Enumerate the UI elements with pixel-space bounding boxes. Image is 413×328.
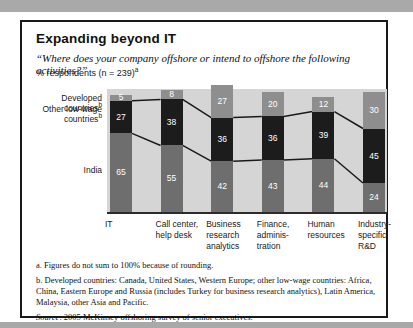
- bar-segment: 27: [110, 101, 132, 134]
- bar-segment: 12: [312, 97, 334, 112]
- bar-value-label: 30: [369, 106, 378, 115]
- bar-value-label: 12: [319, 100, 328, 109]
- x-axis-label: Business research analytics: [206, 219, 262, 252]
- x-axis-label: Industry- specific R&D: [358, 219, 413, 252]
- bar-value-label: 36: [217, 135, 226, 144]
- bar-segment: 36: [211, 118, 233, 162]
- bar-value-label: 36: [268, 134, 277, 143]
- page-top-margin: [0, 0, 413, 12]
- x-axis-label: IT: [105, 219, 161, 230]
- row-labels: Developed countriesb Other low-wage coun…: [22, 89, 104, 214]
- footnotes: a. Figures do not sum to 100% because of…: [36, 260, 378, 327]
- bar-value-label: 39: [319, 131, 328, 140]
- bar-segment: 20: [262, 92, 284, 116]
- source-label: Source: [36, 312, 59, 322]
- bar-value-label: 65: [116, 168, 125, 177]
- chart: Developed countriesb Other low-wage coun…: [22, 89, 390, 249]
- bar-value-label: 44: [319, 181, 328, 190]
- bar-value-label: 8: [169, 90, 174, 99]
- bar-segment: 8: [161, 90, 183, 100]
- footnote-marker: b: [98, 112, 102, 119]
- bar-segment: 43: [262, 160, 284, 212]
- bar-segment: 65: [110, 133, 132, 212]
- respondents-note: % respondents (n = 239)a: [36, 68, 138, 78]
- bar-value-label: 27: [217, 97, 226, 106]
- source-line: Source: 2005 McKinsey offshoring survey …: [36, 312, 378, 323]
- source-text: : 2005 McKinsey offshoring survey of sen…: [59, 312, 252, 322]
- bar-value-label: 5: [119, 93, 124, 102]
- row-label-india: India: [84, 165, 102, 175]
- bar-value-label: 45: [369, 152, 378, 161]
- bar-segment: 44: [312, 159, 334, 212]
- bar-value-label: 20: [268, 100, 277, 109]
- bar-segment: 55: [161, 145, 183, 212]
- plot-area: 6527555388423627433620443912244530: [107, 89, 387, 214]
- x-axis-labels: ITCall center, help deskBusiness researc…: [107, 214, 387, 249]
- exhibit-card: Expanding beyond IT “Where does your com…: [20, 20, 388, 318]
- bar-value-label: 42: [217, 182, 226, 191]
- respondents-footnote-marker: a: [135, 66, 139, 73]
- bar-value-label: 24: [369, 193, 378, 202]
- bar-segment: 30: [363, 92, 385, 128]
- bar-segment: 5: [110, 95, 132, 101]
- respondents-text: % respondents (n = 239): [36, 68, 135, 78]
- bar-segment: 27: [211, 85, 233, 118]
- x-axis-label: Call center, help desk: [156, 219, 212, 241]
- bar-segment: 42: [211, 161, 233, 212]
- footnote-b: b. Developed countries: Canada, United S…: [36, 275, 378, 308]
- connector-lines: [107, 89, 387, 214]
- bar-value-label: 43: [268, 182, 277, 191]
- bar-value-label: 38: [167, 118, 176, 127]
- bar-segment: 45: [363, 129, 385, 183]
- x-axis-label: Finance, adminis- tration: [257, 219, 313, 252]
- bar-value-label: 27: [116, 113, 125, 122]
- exhibit-title: Expanding beyond IT: [36, 31, 176, 46]
- footnote-a: a. Figures do not sum to 100% because of…: [36, 260, 378, 271]
- bar-segment: 38: [161, 99, 183, 145]
- row-label-other-low-wage: Other low-wage countriesb: [42, 104, 102, 124]
- bar-segment: 24: [363, 183, 385, 212]
- bar-value-label: 55: [167, 174, 176, 183]
- bar-segment: 39: [312, 112, 334, 159]
- bar-segment: 36: [262, 116, 284, 160]
- x-axis-label: Human resources: [307, 219, 363, 241]
